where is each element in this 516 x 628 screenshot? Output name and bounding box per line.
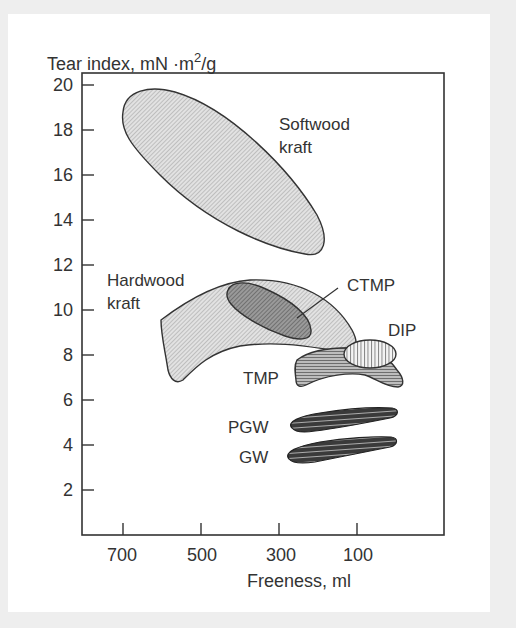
y-tick-8: 8 — [63, 345, 73, 365]
tear-freeness-chart: Tear index, mN ·m2/g 20 18 16 14 12 10 8… — [0, 0, 516, 628]
region-pgw — [291, 408, 398, 432]
x-axis-label: Freeness, ml — [247, 571, 351, 591]
y-tick-2: 2 — [63, 480, 73, 500]
x-tick-700: 700 — [107, 545, 137, 565]
x-tick-labels: 700 500 300 100 — [107, 545, 373, 565]
x-tick-500: 500 — [187, 545, 217, 565]
y-tick-12: 12 — [53, 255, 73, 275]
label-softwood-kraft: kraft — [279, 138, 312, 157]
label-hardwood: Hardwood — [107, 271, 185, 290]
y-tick-14: 14 — [53, 210, 73, 230]
region-dip — [344, 340, 396, 368]
x-ticks — [123, 523, 357, 535]
region-gw — [288, 437, 397, 463]
label-ctmp: CTMP — [347, 276, 395, 295]
y-tick-20: 20 — [53, 75, 73, 95]
label-softwood: Softwood — [279, 115, 350, 134]
label-dip: DIP — [388, 321, 416, 340]
y-tick-10: 10 — [53, 300, 73, 320]
x-tick-300: 300 — [266, 545, 296, 565]
y-tick-6: 6 — [63, 390, 73, 410]
y-tick-16: 16 — [53, 165, 73, 185]
region-softwood-kraft — [122, 89, 324, 255]
y-tick-4: 4 — [63, 435, 73, 455]
label-pgw: PGW — [228, 418, 269, 437]
y-tick-18: 18 — [53, 120, 73, 140]
y-tick-labels: 20 18 16 14 12 10 8 6 4 2 — [53, 75, 73, 500]
label-hardwood-kraft: kraft — [107, 294, 140, 313]
y-axis-label: Tear index, mN ·m2/g — [47, 50, 216, 74]
label-tmp: TMP — [243, 369, 279, 388]
label-gw: GW — [239, 448, 268, 467]
y-ticks — [82, 85, 94, 490]
x-tick-100: 100 — [343, 545, 373, 565]
